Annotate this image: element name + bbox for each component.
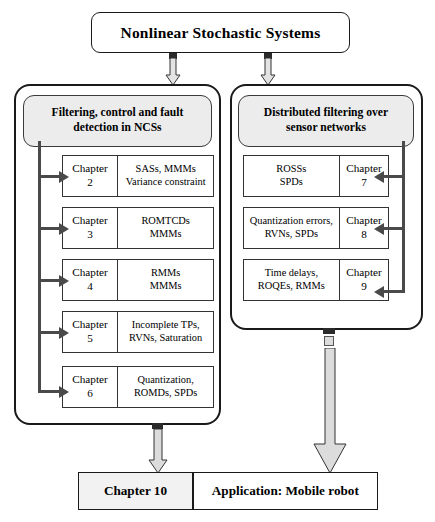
table-row: Chapter4 RMMsMMMs: [62, 259, 214, 301]
right-header-line1: Distributed filtering over: [264, 106, 388, 121]
table-row: Chapter3 ROMTCDsMMMs: [62, 207, 214, 249]
arrow-to-chapter-6: [38, 390, 60, 393]
topic-label: SASs, MMMsVariance constraint: [118, 156, 213, 196]
bottom-application-label: Application: Mobile robot: [194, 473, 377, 509]
arrow-to-chapter-5: [38, 331, 60, 334]
connector-square-right-bottom: [324, 336, 334, 346]
table-row: Chapter6 Quantization,ROMDs, SPDs: [62, 366, 214, 408]
arrow-to-chapter-3: [38, 227, 60, 230]
title-box: Nonlinear Stochastic Systems: [91, 12, 350, 53]
table-row: ROSSsSPDs Chapter7: [243, 155, 389, 197]
chapter-label: Chapter6: [63, 367, 117, 407]
block-arrow-right-to-bottom: [313, 348, 347, 474]
left-group-header: Filtering, control and fault detection i…: [23, 95, 212, 147]
block-arrow-left-to-bottom: [148, 429, 168, 474]
topic-label: Quantization errors,RVNs, SPDs: [244, 208, 339, 248]
left-spine-line: [38, 141, 41, 393]
connector-stub-right-bottom: [323, 328, 335, 334]
topic-label: Incomplete TPs,RVNs, Saturation: [118, 312, 213, 352]
table-row: Quantization errors,RVNs, SPDs Chapter8: [243, 207, 389, 249]
block-arrow-title-to-right: [260, 58, 276, 86]
right-spine-line: [402, 141, 405, 293]
chapter-label: Chapter5: [63, 312, 117, 352]
block-arrow-title-to-left: [165, 58, 181, 86]
topic-label: ROMTCDsMMMs: [118, 208, 213, 248]
arrow-to-chapter-7: [383, 175, 405, 178]
table-row: Chapter2 SASs, MMMsVariance constraint: [62, 155, 214, 197]
table-row: Time delays,ROQEs, RMMs Chapter9: [243, 259, 389, 301]
left-header-line1: Filtering, control and fault: [52, 106, 184, 121]
chapter-label: Chapter3: [63, 208, 117, 248]
bottom-box: Chapter 10 Application: Mobile robot: [78, 472, 378, 510]
chapter-label: Chapter2: [63, 156, 117, 196]
right-group-header: Distributed filtering over sensor networ…: [238, 95, 414, 147]
bottom-chapter-label: Chapter 10: [79, 473, 192, 509]
table-row: Chapter5 Incomplete TPs,RVNs, Saturation: [62, 311, 214, 353]
topic-label: Quantization,ROMDs, SPDs: [118, 367, 213, 407]
arrow-to-chapter-4: [38, 279, 60, 282]
topic-label: Time delays,ROQEs, RMMs: [244, 260, 339, 300]
right-header-line2: sensor networks: [264, 121, 388, 136]
arrow-to-chapter-8: [383, 227, 405, 230]
left-header-line2: detection in NCSs: [52, 121, 184, 136]
page-title: Nonlinear Stochastic Systems: [121, 24, 321, 42]
chapter-label: Chapter4: [63, 260, 117, 300]
topic-label: ROSSsSPDs: [244, 156, 339, 196]
arrow-to-chapter-9: [383, 290, 405, 293]
topic-label: RMMsMMMs: [118, 260, 213, 300]
arrow-to-chapter-2: [38, 175, 60, 178]
